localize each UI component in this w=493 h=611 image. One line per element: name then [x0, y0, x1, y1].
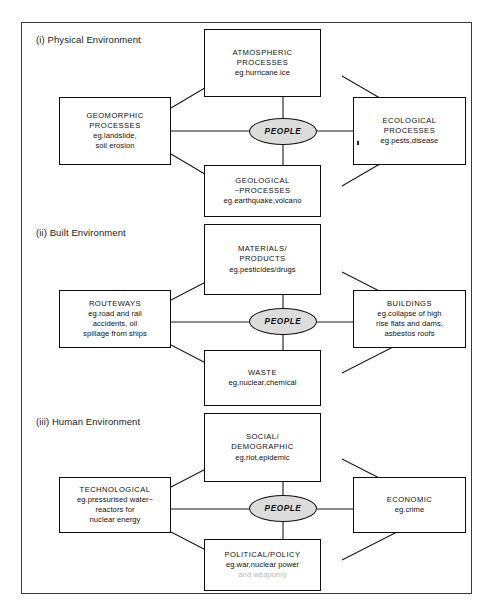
node-heading: TECHNOLOGICAL [80, 485, 151, 495]
node-heading: DEMOGRAPHIC [231, 442, 293, 452]
node-heading: GEOLOGICAL [235, 176, 289, 186]
node-heading: WASTE [248, 368, 277, 378]
people-label: PEOPLE [265, 127, 302, 136]
node-geomorphic-processes[interactable]: GEOMORPHIC PROCESSES eg.landslide, soil … [59, 97, 171, 165]
node-heading: MATERIALS/ [238, 244, 287, 254]
node-example: eg.hurricane.ice [235, 68, 290, 78]
people-node-human[interactable]: PEOPLE [249, 495, 317, 522]
node-heading: BUILDINGS [387, 299, 432, 309]
node-heading: ECONOMIC [387, 495, 432, 505]
figure-page: (i) Physical Environment ATMOSPHERIC PRO… [0, 0, 493, 611]
node-heading: ROUTEWAYS [89, 299, 141, 309]
node-example: eg.earthquake,volcano [224, 196, 302, 206]
node-buildings[interactable]: BUILDINGS eg.collapse of high rise flats… [353, 290, 466, 348]
node-technological[interactable]: TECHNOLOGICAL eg.pressurised water~ reac… [59, 477, 171, 533]
node-heading: ATMOSPHERIC [232, 48, 292, 58]
node-heading: PROCESSES [89, 121, 140, 131]
section-human-environment: (iii) Human Environment SOCIAL/ DEMOGRAP… [22, 411, 473, 595]
node-routeways[interactable]: ROUTEWAYS eg.road and rail accidents, oi… [59, 290, 171, 348]
node-example: eg.landslide, [93, 131, 136, 141]
node-waste[interactable]: WASTE eg.nuclear,chemical [204, 350, 321, 406]
node-example: eg.road and rail [88, 309, 142, 319]
node-heading: PRODUCTS [239, 254, 285, 264]
node-heading: GEOMORPHIC [86, 111, 143, 121]
node-economic[interactable]: ECONOMIC eg.crime [353, 477, 466, 533]
people-node-built[interactable]: PEOPLE [249, 308, 317, 335]
node-heading: ECOLOGICAL [383, 116, 437, 126]
section-title-human: (iii) Human Environment [36, 416, 140, 427]
node-geological-processes[interactable]: GEOLOGICAL ~PROCESSES eg.earthquake,volc… [204, 165, 321, 217]
node-example: eg.riot,epidemic [235, 453, 289, 463]
node-example: asbestos roofs [384, 329, 434, 339]
node-example: eg.collapse of high [377, 309, 441, 319]
node-example: eg.pesticides/drugs [229, 265, 295, 275]
node-social-demographic[interactable]: SOCIAL/ DEMOGRAPHIC eg.riot,epidemic [204, 413, 321, 482]
section-title-built: (ii) Built Environment [36, 227, 126, 238]
node-political-policy[interactable]: POLITICAL/POLICY eg.war,nuclear power an… [204, 539, 321, 591]
section-physical-environment: (i) Physical Environment ATMOSPHERIC PRO… [22, 23, 473, 218]
node-example: eg.pressurised water~ [77, 495, 153, 505]
node-example: accidents, oil [93, 319, 138, 329]
node-heading: ~PROCESSES [234, 186, 290, 196]
node-materials-products[interactable]: MATERIALS/ PRODUCTS eg.pesticides/drugs [204, 224, 321, 295]
node-example: nuclear energy [90, 515, 141, 525]
node-heading: POLITICAL/POLICY [225, 550, 301, 560]
node-example: reactors for [95, 505, 134, 515]
figure-frame: (i) Physical Environment ATMOSPHERIC PRO… [21, 22, 472, 594]
section-built-environment: (ii) Built Environment MATERIALS/ PRODUC… [22, 218, 473, 411]
node-example: eg.pests,disease [381, 136, 439, 146]
node-example: and weaponry [238, 570, 286, 580]
node-example: eg.nuclear,chemical [228, 378, 296, 388]
node-example: eg.crime [395, 505, 425, 515]
people-label: PEOPLE [265, 317, 302, 326]
node-example: rise flats and dams, [376, 319, 443, 329]
node-heading: PROCESSES [384, 126, 435, 136]
people-node-physical[interactable]: PEOPLE [249, 118, 317, 145]
node-heading: PROCESSES [237, 58, 288, 68]
section-title-physical: (i) Physical Environment [36, 34, 141, 45]
node-ecological-processes[interactable]: ECOLOGICAL PROCESSES eg.pests,disease [353, 97, 466, 165]
node-example: spillage from ships [83, 329, 147, 339]
node-heading: SOCIAL/ [246, 432, 279, 442]
ink-speck [357, 141, 359, 145]
node-example: soil erosion [95, 141, 134, 151]
people-label: PEOPLE [265, 504, 302, 513]
node-example: eg.war,nuclear power [226, 560, 299, 570]
node-atmospheric-processes[interactable]: ATMOSPHERIC PROCESSES eg.hurricane.ice [204, 29, 321, 97]
